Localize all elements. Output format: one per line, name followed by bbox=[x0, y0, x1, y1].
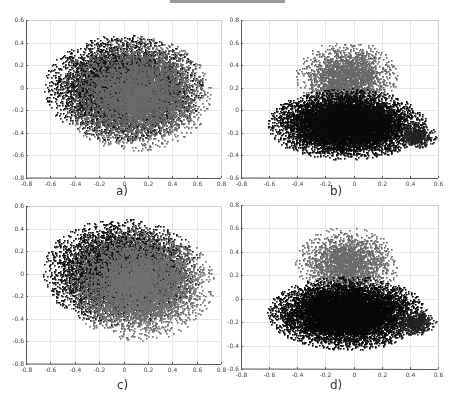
scatter-panel-d: d) bbox=[226, 200, 452, 393]
scatter-plot-a bbox=[0, 14, 226, 200]
scatter-panel-b: b) bbox=[226, 14, 452, 200]
scatter-plot-b bbox=[226, 14, 452, 200]
scatter-panel-c: c) bbox=[0, 200, 226, 393]
panel-label-b: b) bbox=[330, 184, 342, 198]
scatter-plot-c bbox=[0, 200, 226, 393]
figure-top-bar bbox=[170, 0, 285, 3]
panel-label-a: a) bbox=[116, 184, 128, 198]
panel-label-d: d) bbox=[330, 378, 342, 392]
panel-label-c: c) bbox=[117, 378, 128, 392]
scatter-panel-a: a) bbox=[0, 14, 226, 200]
scatter-plot-d bbox=[226, 200, 452, 393]
